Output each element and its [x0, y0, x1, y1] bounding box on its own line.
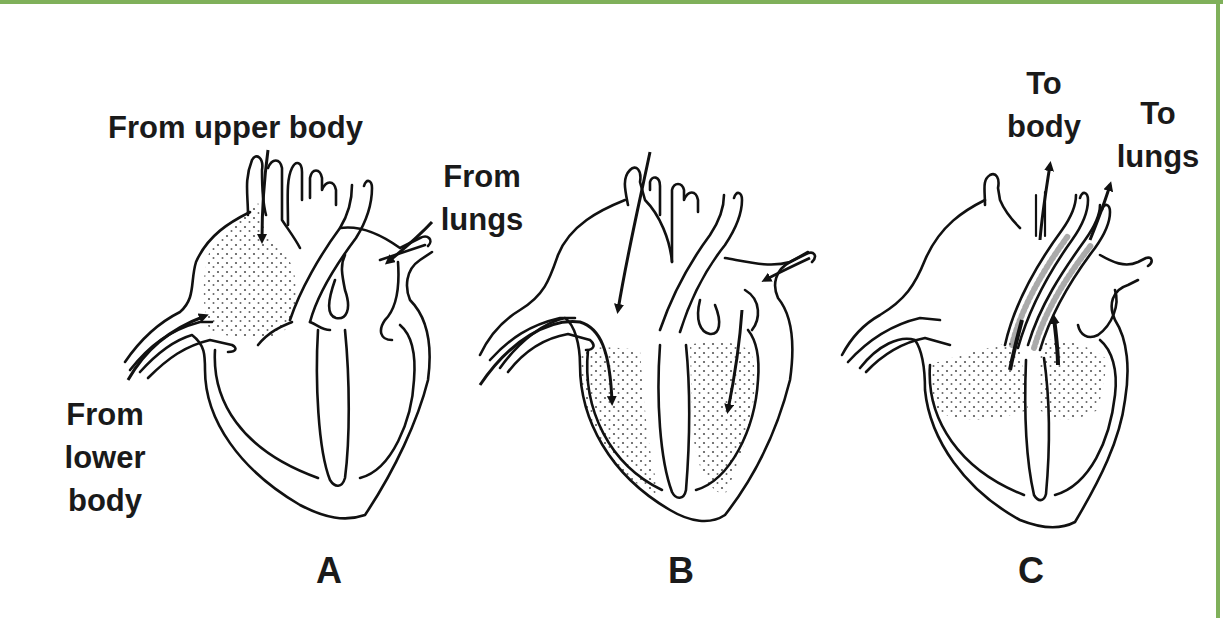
heart-c — [842, 174, 1152, 527]
label-to-lungs: To lungs — [1108, 92, 1208, 178]
label-to-body-line2: body — [994, 105, 1094, 148]
label-to-body: To body — [994, 62, 1094, 148]
label-from-lungs: From lungs — [432, 155, 532, 241]
label-from-upper-body: From upper body — [108, 106, 363, 149]
label-to-body-line1: To — [994, 62, 1094, 105]
panel-letter-c: C — [1018, 550, 1044, 592]
label-to-lungs-line1: To — [1108, 92, 1208, 135]
arrow-to-lungs — [1090, 185, 1110, 240]
label-from-lower-body-line1: From — [55, 393, 155, 436]
arrow-b-from-lungs — [765, 258, 810, 280]
arrow-b-top — [618, 152, 650, 310]
label-from-lungs-line1: From — [432, 155, 532, 198]
label-from-lungs-line2: lungs — [432, 198, 532, 241]
panel-letter-b: B — [668, 550, 694, 592]
label-from-lower-body: From lower body — [55, 393, 155, 522]
label-from-lower-body-line3: body — [55, 479, 155, 522]
heart-blood-flow-diagram: From upper body From lungs From lower bo… — [0, 0, 1223, 618]
panel-letter-a: A — [316, 550, 342, 592]
left-ventricle-shaded — [1040, 340, 1108, 420]
label-to-lungs-line2: lungs — [1108, 135, 1208, 178]
flow-arrows-c — [1010, 165, 1110, 370]
label-from-lower-body-line2: lower — [55, 436, 155, 479]
heart-a — [125, 156, 432, 518]
